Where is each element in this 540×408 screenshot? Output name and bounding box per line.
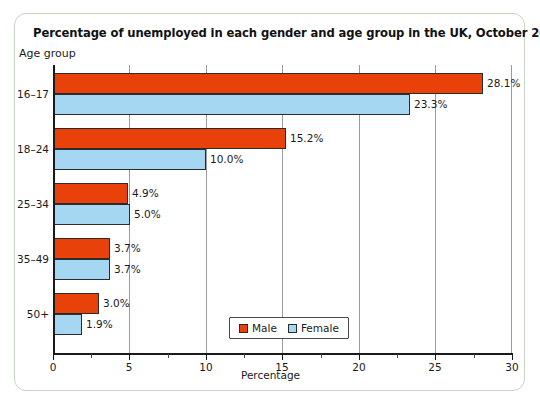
xtick-minor-12-5 — [244, 354, 245, 358]
xtick-0 — [53, 354, 54, 360]
xtick-15 — [282, 354, 283, 360]
bar-male-25-34 — [53, 183, 128, 204]
y-axis-title: Age group — [19, 47, 76, 60]
category-label-group: 16–17 18–24 25–34 35–49 50+ — [1, 65, 49, 353]
xtick-minor-27-5 — [474, 354, 475, 358]
bar-male-35-49 — [53, 238, 110, 259]
category-label-50plus: 50+ — [1, 308, 49, 320]
legend-swatch-male-icon — [239, 324, 248, 333]
legend-label-male: Male — [252, 322, 277, 334]
bar-value-male-35-49: 3.7% — [114, 238, 141, 259]
bar-value-male-18-24: 15.2% — [290, 128, 323, 149]
category-label-25-34: 25–34 — [1, 198, 49, 210]
chart-title: Percentage of unemployed in each gender … — [33, 26, 513, 40]
xtick-minor-2-5 — [91, 354, 92, 358]
bar-female-25-34 — [53, 204, 130, 225]
figure-card: Percentage of unemployed in each gender … — [14, 13, 525, 391]
xtick-minor-22-5 — [397, 354, 398, 358]
x-axis-line — [53, 353, 513, 355]
legend-swatch-female-icon — [288, 324, 297, 333]
xtick-minor-17-5 — [321, 354, 322, 358]
xtick-25 — [435, 354, 436, 360]
bar-value-male-25-34: 4.9% — [132, 183, 159, 204]
legend-entry-female: Female — [288, 322, 339, 334]
bar-male-18-24 — [53, 128, 286, 149]
plot-area: 28.1% 23.3% 15.2% 10.0% 4.9% 5.0% 3.7% 3… — [53, 65, 512, 353]
x-axis-title: Percentage — [15, 369, 526, 381]
bar-value-female-35-49: 3.7% — [114, 259, 141, 280]
xtick-10 — [206, 354, 207, 360]
bar-female-50plus — [53, 314, 82, 335]
bar-value-female-16-17: 23.3% — [414, 94, 447, 115]
xtick-5 — [129, 354, 130, 360]
bar-female-35-49 — [53, 259, 110, 280]
bar-female-18-24 — [53, 149, 206, 170]
bar-value-male-50plus: 3.0% — [103, 293, 130, 314]
chart-legend: Male Female — [229, 317, 349, 339]
bar-female-16-17 — [53, 94, 410, 115]
xtick-30 — [512, 354, 513, 360]
bar-male-50plus — [53, 293, 99, 314]
y-axis-line — [53, 65, 55, 354]
bar-male-16-17 — [53, 73, 483, 94]
category-label-16-17: 16–17 — [1, 88, 49, 100]
bar-value-female-50plus: 1.9% — [86, 314, 113, 335]
bar-value-female-18-24: 10.0% — [210, 149, 243, 170]
xtick-20 — [359, 354, 360, 360]
gridline-30 — [511, 65, 512, 353]
xtick-minor-7-5 — [168, 354, 169, 358]
bar-value-male-16-17: 28.1% — [487, 73, 520, 94]
category-label-18-24: 18–24 — [1, 143, 49, 155]
legend-entry-male: Male — [239, 322, 277, 334]
legend-label-female: Female — [301, 322, 339, 334]
bar-value-female-25-34: 5.0% — [134, 204, 161, 225]
category-label-35-49: 35–49 — [1, 253, 49, 265]
